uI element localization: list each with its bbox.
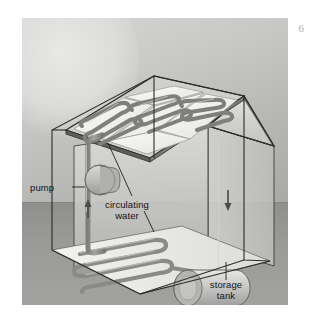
- label-storage-tank: storage tank: [204, 280, 248, 301]
- page-corner-mark: 6: [299, 22, 305, 34]
- pump-unit: [85, 165, 120, 195]
- tank-end-detail: [179, 276, 197, 300]
- pump-housing: [100, 166, 120, 194]
- label-pump: pump: [30, 183, 54, 194]
- figure-plate: pump circulating water storage tank: [22, 18, 288, 305]
- page: pump circulating water storage tank 6: [0, 0, 310, 330]
- label-circulating-water: circulating water: [98, 200, 156, 221]
- house-diagram: [22, 18, 288, 305]
